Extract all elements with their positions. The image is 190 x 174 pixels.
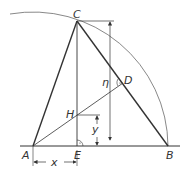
side-ac bbox=[33, 21, 77, 146]
label-a: A bbox=[21, 149, 30, 162]
label-d: D bbox=[124, 74, 132, 87]
label-h: H bbox=[66, 108, 74, 121]
label-b: B bbox=[166, 149, 174, 162]
label-e: E bbox=[74, 149, 81, 162]
circle-arc bbox=[10, 12, 168, 146]
altitude-ad bbox=[33, 83, 123, 146]
label-eta: η bbox=[102, 76, 109, 89]
label-c: C bbox=[73, 8, 81, 21]
label-y: y bbox=[91, 123, 99, 136]
label-x: x bbox=[50, 156, 58, 169]
geometry-diagram: C D H A E B η y x bbox=[0, 0, 190, 174]
